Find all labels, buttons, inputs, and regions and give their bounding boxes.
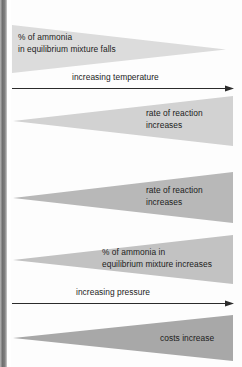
temperature-axis <box>0 84 242 93</box>
wedge-ammonia-falls-line2: in equilibrium mixture falls <box>18 44 116 56</box>
wedge-rate-temperature-label: rate of reaction increases <box>146 108 203 131</box>
wedge-ammonia-increases-label: % of ammonia in equilibrium mixture incr… <box>102 247 212 270</box>
pressure-axis <box>0 299 242 308</box>
wedge-costs-increase-label: costs increase <box>160 333 214 345</box>
wedge-rate-pressure-label: rate of reaction increases <box>146 185 203 208</box>
wedge-rate-temperature-line1: rate of reaction <box>146 108 203 120</box>
wedge-ammonia-falls-line1: % of ammonia <box>18 32 116 44</box>
wedge-rate-temperature-line2: increases <box>146 120 203 132</box>
wedge-rate-pressure-shape <box>0 171 242 224</box>
pressure-axis-label: increasing pressure <box>76 287 150 297</box>
wedge-costs-increase-line1: costs increase <box>160 333 214 345</box>
wedge-rate-temperature <box>0 95 242 147</box>
temperature-axis-label: increasing temperature <box>72 72 159 82</box>
figure-canvas: % of ammonia in equilibrium mixture fall… <box>0 0 242 367</box>
wedge-rate-pressure <box>0 171 242 224</box>
wedge-ammonia-falls-label: % of ammonia in equilibrium mixture fall… <box>18 32 116 55</box>
wedge-ammonia-increases-line2: equilibrium mixture increases <box>102 259 212 271</box>
wedge-rate-temperature-shape <box>0 95 242 147</box>
wedge-ammonia-increases-line1: % of ammonia in <box>102 247 212 259</box>
pressure-axis-arrow-icon <box>0 299 242 308</box>
temperature-axis-arrow-icon <box>0 84 242 93</box>
wedge-rate-pressure-line2: increases <box>146 197 203 209</box>
wedge-rate-pressure-line1: rate of reaction <box>146 185 203 197</box>
